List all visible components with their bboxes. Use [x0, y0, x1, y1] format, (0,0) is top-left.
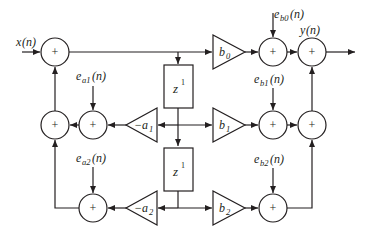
delay-label: z — [172, 164, 178, 179]
label-eb2: e b2 (n) — [254, 152, 284, 168]
block-diagram: + + + + + + + + + z 1 z 1 — [0, 0, 370, 239]
svg-text:(n): (n) — [270, 152, 284, 166]
delay-exponent: 1 — [181, 78, 185, 87]
delay-exponent: 1 — [181, 161, 185, 170]
gain-b2: b 2 — [213, 191, 245, 225]
gain-minus-a2: − a 2 — [126, 191, 157, 225]
svg-text:(n): (n) — [290, 7, 304, 21]
plus-sign: + — [270, 45, 277, 59]
svg-text:x: x — [15, 35, 22, 49]
label-output: y (n) — [299, 23, 320, 37]
adder-eb2: + — [259, 194, 287, 222]
plus-sign: + — [90, 201, 97, 215]
feedforward-up-2 — [287, 140, 312, 208]
delay-label: z — [172, 81, 178, 96]
gain-minus-a1: − a 1 — [126, 108, 157, 142]
plus-sign: + — [309, 45, 316, 59]
svg-text:1: 1 — [149, 124, 153, 134]
plus-sign: + — [52, 118, 59, 132]
plus-sign: + — [90, 118, 97, 132]
svg-text:b: b — [219, 201, 225, 215]
svg-text:1: 1 — [226, 124, 230, 134]
gain-b0: b 0 — [213, 35, 245, 69]
label-ea2: e a2 (n) — [76, 151, 106, 167]
adder-eb0: + — [259, 38, 287, 66]
adder-output: + — [298, 38, 326, 66]
plus-sign: + — [270, 118, 277, 132]
svg-text:a2: a2 — [82, 157, 91, 167]
label-input: x (n) — [15, 35, 36, 49]
svg-text:y: y — [299, 23, 306, 37]
label-eb0: e b0 (n) — [274, 7, 304, 23]
adder-left-mid: + — [41, 111, 69, 139]
svg-text:(n): (n) — [92, 69, 106, 83]
svg-text:b0: b0 — [280, 13, 289, 23]
plus-sign: + — [309, 118, 316, 132]
svg-text:a: a — [142, 118, 148, 132]
svg-text:b2: b2 — [260, 158, 269, 168]
label-ea1: e a1 (n) — [76, 69, 106, 85]
svg-text:−: − — [134, 118, 142, 132]
label-eb1: e b1 (n) — [254, 72, 284, 88]
svg-text:−: − — [134, 201, 142, 215]
svg-text:a1: a1 — [82, 75, 91, 85]
svg-text:(n): (n) — [92, 151, 106, 165]
adder-ea1: + — [79, 111, 107, 139]
adder-eb1: + — [259, 111, 287, 139]
svg-text:(n): (n) — [306, 23, 320, 37]
plus-sign: + — [52, 45, 59, 59]
svg-text:b: b — [219, 45, 225, 59]
delay-block-1: z 1 — [164, 65, 193, 108]
plus-sign: + — [270, 201, 277, 215]
svg-text:b1: b1 — [260, 78, 269, 88]
svg-text:(n): (n) — [270, 72, 284, 86]
adder-right-mid: + — [298, 111, 326, 139]
adder-input: + — [41, 38, 69, 66]
delay-block-2: z 1 — [164, 148, 193, 191]
adder-ea2: + — [79, 194, 107, 222]
gain-b1: b 1 — [213, 108, 245, 142]
svg-text:(n): (n) — [22, 35, 36, 49]
svg-text:b: b — [219, 118, 225, 132]
svg-text:a: a — [142, 201, 148, 215]
